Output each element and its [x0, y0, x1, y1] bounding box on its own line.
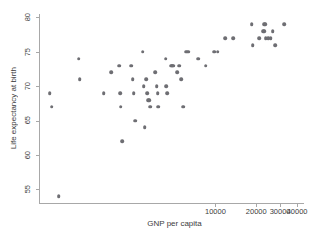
scatter-point [182, 105, 186, 109]
y-tick-label-wrapper: 70 [20, 80, 34, 92]
scatter-point [223, 36, 227, 40]
scatter-point [250, 23, 254, 27]
scatter-point [271, 29, 275, 33]
scatter-point [109, 71, 113, 75]
scatter-point [157, 105, 161, 109]
y-tick-label: 80 [23, 13, 32, 21]
scatter-point [257, 36, 261, 40]
scatter-point [77, 57, 81, 61]
scatter-point [172, 64, 176, 68]
y-tick-label-wrapper: 55 [20, 183, 34, 195]
y-tick-label-wrapper: 60 [20, 149, 34, 161]
scatter-point [78, 77, 82, 81]
y-axis-title: Life expectancy at birth [9, 67, 18, 149]
scatter-point [165, 84, 169, 88]
x-tick-label: 10000 [205, 207, 226, 216]
scatter-point [262, 29, 266, 33]
x-tick-label: 20000 [246, 207, 267, 216]
scatter-point [48, 91, 52, 95]
scatter-point [216, 50, 220, 54]
scatter-point [269, 36, 273, 40]
y-tick-mark [36, 52, 39, 53]
scatter-point [156, 91, 160, 95]
scatter-point [50, 105, 54, 109]
scatter-plot-figure: 55606570758010000200003000040000 GNP per… [0, 0, 313, 242]
scatter-point [57, 194, 61, 198]
y-axis-title-wrapper: Life expectancy at birth [6, 14, 20, 203]
scatter-point [147, 98, 151, 102]
y-axis-line [39, 14, 40, 203]
y-tick-label: 75 [23, 48, 32, 56]
scatter-point [132, 91, 136, 95]
scatter-point [142, 84, 146, 88]
scatter-point [282, 23, 286, 27]
scatter-point [133, 119, 137, 123]
scatter-point [117, 64, 121, 68]
y-tick-mark [36, 86, 39, 87]
scatter-point [119, 105, 123, 109]
scatter-point [148, 105, 152, 109]
y-tick-mark [36, 17, 39, 18]
scatter-point [131, 77, 135, 81]
scatter-point [186, 50, 190, 54]
scatter-point [231, 36, 235, 40]
y-tick-label-wrapper: 75 [20, 46, 34, 58]
scatter-point [263, 23, 267, 27]
scatter-point [102, 91, 106, 95]
scatter-point [251, 43, 255, 47]
y-tick-mark [36, 189, 39, 190]
scatter-point [165, 91, 169, 95]
y-tick-mark [36, 155, 39, 156]
y-tick-label: 65 [23, 116, 32, 124]
y-tick-label: 70 [23, 82, 32, 90]
y-tick-label-wrapper: 80 [20, 11, 34, 23]
scatter-point [179, 77, 183, 81]
y-tick-label: 55 [23, 185, 32, 193]
x-axis-line [39, 203, 304, 204]
scatter-point [197, 57, 201, 61]
scatter-point [145, 77, 149, 81]
scatter-point [204, 64, 208, 68]
scatter-point [146, 91, 150, 95]
scatter-point [118, 91, 122, 95]
scatter-point [177, 64, 181, 68]
scatter-point [130, 64, 134, 68]
y-tick-label-wrapper: 65 [20, 115, 34, 127]
scatter-point [143, 126, 147, 130]
scatter-point [120, 139, 124, 143]
scatter-point [164, 57, 168, 61]
scatter-point [141, 50, 145, 54]
x-axis-title: GNP per capita [0, 219, 313, 228]
scatter-point [273, 43, 277, 47]
scatter-point [155, 84, 159, 88]
y-tick-label: 60 [23, 151, 32, 159]
y-tick-mark [36, 121, 39, 122]
scatter-point [153, 71, 157, 75]
scatter-point [175, 71, 179, 75]
x-tick-label: 40000 [287, 207, 308, 216]
